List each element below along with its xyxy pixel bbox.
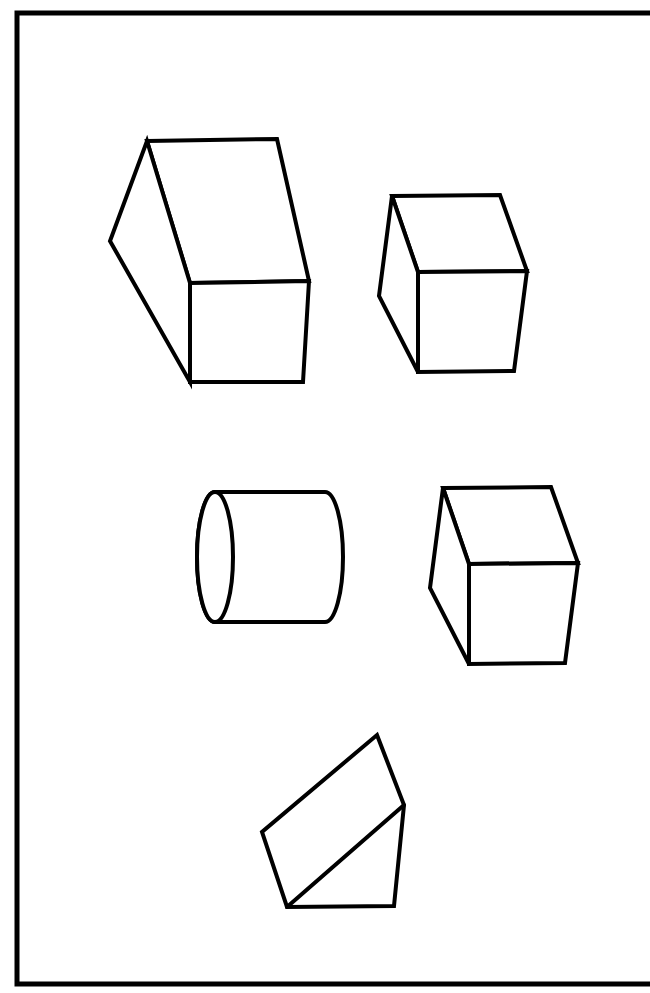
cylinder-left-ellipse bbox=[197, 492, 233, 622]
figure-cylinder bbox=[197, 492, 343, 622]
figure-cube-lower-right bbox=[430, 487, 578, 664]
worksheet-page: ABC bbox=[0, 0, 650, 993]
prism-front-face bbox=[190, 281, 309, 382]
figure-rectangular-prism bbox=[110, 139, 309, 382]
cube2-front-face bbox=[418, 271, 527, 372]
figures-canvas bbox=[0, 0, 650, 993]
figure-triangular-prism bbox=[262, 735, 404, 907]
cube4-front-face bbox=[469, 563, 578, 664]
figure-cube-upper-right bbox=[379, 195, 527, 372]
